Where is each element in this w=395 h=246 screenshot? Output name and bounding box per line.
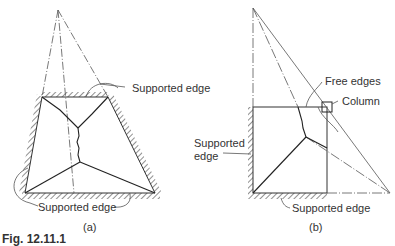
label-supported-edge-bottom-a: Supported edge <box>38 201 116 213</box>
yield-line-wavy <box>298 107 306 137</box>
leader-line-supported-bottom <box>281 198 290 208</box>
leader-line-supported <box>223 153 251 154</box>
construction-line <box>58 10 74 193</box>
hatch-left-edge-b <box>248 107 253 193</box>
figure-caption: Fig. 12.11.1 <box>2 233 66 245</box>
panel-b-drawing <box>223 8 390 208</box>
panel-label-b: (b) <box>309 221 322 233</box>
hatch-right-edge <box>108 94 162 193</box>
construction-line <box>306 137 390 193</box>
slab-outline-b <box>253 107 327 193</box>
construction-line <box>42 10 58 97</box>
label-supported-left-line2: edge <box>194 150 218 162</box>
yield-line <box>25 162 80 193</box>
leader-arc-free-edges <box>318 107 338 132</box>
label-supported-edge-bottom-b: Supported edge <box>292 202 370 214</box>
label-column: Column <box>342 95 380 107</box>
yield-line <box>253 137 306 193</box>
hatch-bottom-edge <box>22 193 160 199</box>
yield-line <box>42 97 78 128</box>
construction-line <box>253 8 298 107</box>
yield-line-wavy <box>77 128 80 162</box>
hatch-top-edge <box>40 92 110 97</box>
label-supported-left-line1: Supported <box>194 137 245 149</box>
panel-a-drawing <box>14 10 162 207</box>
leader-line-column <box>332 101 338 104</box>
yield-line <box>306 137 327 148</box>
label-supported-edge-top-a: Supported edge <box>132 82 210 94</box>
leader-arc-free-edges <box>306 82 322 107</box>
hatch-bottom-edge-b <box>248 193 327 199</box>
yield-line <box>78 97 108 128</box>
hatch-left-edge <box>19 94 42 193</box>
panel-label-a: (a) <box>83 221 96 233</box>
label-free-edges: Free edges <box>325 75 381 87</box>
